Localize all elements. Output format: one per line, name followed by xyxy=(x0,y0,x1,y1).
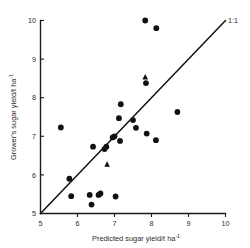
data-point-circle xyxy=(143,80,149,86)
y-tick-label: 8 xyxy=(32,93,36,102)
data-point-circle xyxy=(130,117,136,123)
y-tick-label: 10 xyxy=(28,16,36,25)
x-axis-title: Predicted sugar yield/t ha-1 xyxy=(92,233,180,243)
reference-line-label: 1:1 xyxy=(228,16,238,25)
data-point-circle xyxy=(58,125,64,131)
y-tick-label: 9 xyxy=(32,55,36,64)
data-point-circle xyxy=(96,192,102,198)
plot-canvas: 56789105678910 1:1Predicted sugar yield/… xyxy=(0,0,250,248)
x-tick-label: 9 xyxy=(187,219,191,228)
data-point-circle xyxy=(142,18,148,24)
x-tick-label: 5 xyxy=(39,219,43,228)
data-point-circle xyxy=(133,125,139,131)
one-to-one-reference-line xyxy=(41,21,226,214)
y-tick-label: 6 xyxy=(32,171,36,180)
y-axis-title-superscript: -1 xyxy=(8,74,14,79)
data-point-circle xyxy=(110,135,116,141)
data-point-triangle xyxy=(104,161,110,166)
x-axis-title-superscript: -1 xyxy=(175,233,180,239)
data-point-circle xyxy=(102,146,108,152)
data-point-circle xyxy=(87,192,93,198)
data-point-circle xyxy=(89,202,95,208)
y-axis-title: Grower's sugar yield/t ha-1 xyxy=(8,74,18,160)
data-point-triangle xyxy=(142,74,148,79)
x-tick-label: 8 xyxy=(150,219,154,228)
data-point-circle xyxy=(144,131,150,137)
data-point-circle xyxy=(66,176,72,182)
x-tick-label: 7 xyxy=(113,219,117,228)
data-point-circle xyxy=(118,101,124,107)
data-point-circle xyxy=(175,109,181,115)
scatter-plot-figure: 56789105678910 1:1Predicted sugar yield/… xyxy=(0,0,250,248)
x-tick-label: 6 xyxy=(76,219,80,228)
data-point-circle xyxy=(90,144,96,150)
data-point-circle xyxy=(113,194,119,200)
data-point-circle xyxy=(68,193,74,199)
y-tick-label: 7 xyxy=(32,132,36,141)
data-point-circle xyxy=(153,25,159,31)
data-point-circle xyxy=(117,138,123,144)
axis-labels-group: 1:1Predicted sugar yield/t ha-1Grower's … xyxy=(8,16,238,243)
data-point-circle xyxy=(153,137,159,143)
reference-line-group xyxy=(41,21,226,214)
data-point-circle xyxy=(116,115,122,121)
data-markers-group xyxy=(58,18,180,208)
y-tick-label: 5 xyxy=(32,209,36,218)
x-tick-label: 10 xyxy=(222,219,230,228)
